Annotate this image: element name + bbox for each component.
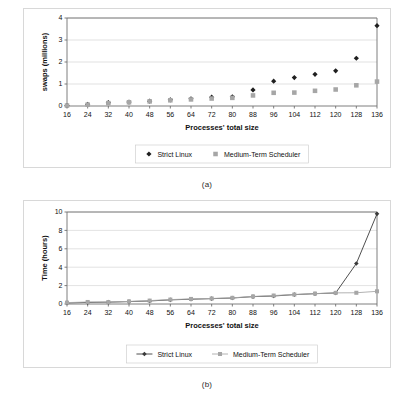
data-point-medium-term-scheduler-8 bbox=[230, 96, 235, 101]
x-tick-label-7: 72 bbox=[208, 309, 216, 316]
y-tick-label-4: 4 bbox=[59, 14, 63, 21]
data-point-medium-term-scheduler-5 bbox=[168, 98, 173, 103]
legend-label-medium-term-scheduler: Medium-Term Scheduler bbox=[233, 351, 310, 358]
x-tick-label-14: 128 bbox=[350, 309, 362, 316]
x-tick-label-3: 40 bbox=[125, 309, 133, 316]
data-point-medium-term-scheduler-6 bbox=[189, 297, 193, 301]
data-point-medium-term-scheduler-1 bbox=[85, 102, 90, 107]
x-tick-label-0: 16 bbox=[63, 111, 71, 118]
y-axis-title: swaps (millions) bbox=[40, 32, 49, 91]
legend-label-medium-term-scheduler: Medium-Term Scheduler bbox=[224, 151, 301, 158]
x-tick-label-5: 56 bbox=[166, 111, 174, 118]
data-point-medium-term-scheduler-4 bbox=[148, 299, 152, 303]
x-tick-label-7: 72 bbox=[208, 111, 216, 118]
x-tick-label-0: 16 bbox=[63, 309, 71, 316]
y-tick-label-1: 1 bbox=[59, 80, 63, 87]
data-point-strict-linux-legend bbox=[146, 151, 151, 156]
x-tick-label-13: 120 bbox=[330, 309, 342, 316]
data-point-medium-term-scheduler-14 bbox=[354, 83, 359, 88]
data-point-medium-term-scheduler-13 bbox=[333, 87, 338, 92]
legend-label-strict-linux: Strict Linux bbox=[157, 351, 192, 358]
data-point-medium-term-scheduler-11 bbox=[292, 293, 296, 297]
data-point-medium-term-scheduler-14 bbox=[354, 291, 358, 295]
x-tick-label-8: 80 bbox=[228, 111, 236, 118]
x-tick-label-9: 88 bbox=[249, 111, 257, 118]
chart-a-plot: 0123416243240485664728088961041121201281… bbox=[23, 8, 391, 172]
caption-b: (b) bbox=[0, 380, 414, 389]
x-tick-label-5: 56 bbox=[166, 309, 174, 316]
x-tick-label-9: 88 bbox=[249, 309, 257, 316]
chart-a-container: 0123416243240485664728088961041121201281… bbox=[23, 8, 391, 168]
y-tick-label-1: 2 bbox=[59, 282, 63, 289]
x-tick-label-6: 64 bbox=[187, 111, 195, 118]
data-point-medium-term-scheduler-2 bbox=[106, 101, 111, 106]
plot-area bbox=[67, 212, 377, 304]
x-tick-label-15: 136 bbox=[371, 309, 383, 316]
caption-a: (a) bbox=[0, 180, 414, 189]
x-tick-label-10: 96 bbox=[270, 111, 278, 118]
x-axis-title: Processes' total size bbox=[185, 123, 259, 132]
x-tick-label-8: 80 bbox=[228, 309, 236, 316]
x-tick-label-11: 104 bbox=[288, 309, 300, 316]
x-tick-label-1: 24 bbox=[84, 111, 92, 118]
data-point-medium-term-scheduler-15 bbox=[375, 79, 380, 84]
x-tick-label-11: 104 bbox=[288, 111, 300, 118]
chart-b-container: 0246810162432404856647280889610411212012… bbox=[23, 200, 391, 368]
figure-page: 0123416243240485664728088961041121201281… bbox=[0, 0, 414, 398]
x-tick-label-3: 40 bbox=[125, 111, 133, 118]
x-tick-label-14: 128 bbox=[350, 111, 362, 118]
x-tick-label-4: 48 bbox=[146, 111, 154, 118]
data-point-medium-term-scheduler-3 bbox=[127, 100, 132, 105]
x-tick-label-6: 64 bbox=[187, 309, 195, 316]
data-point-medium-term-scheduler-8 bbox=[230, 296, 234, 300]
y-tick-label-4: 8 bbox=[59, 227, 63, 234]
figure-a: 0123416243240485664728088961041121201281… bbox=[0, 8, 414, 198]
x-tick-label-10: 96 bbox=[270, 309, 278, 316]
data-point-medium-term-scheduler-0 bbox=[65, 103, 70, 108]
x-tick-label-13: 120 bbox=[330, 111, 342, 118]
data-point-medium-term-scheduler-9 bbox=[251, 294, 255, 298]
y-tick-label-3: 3 bbox=[59, 36, 63, 43]
x-tick-label-15: 136 bbox=[371, 111, 383, 118]
data-point-medium-term-scheduler-9 bbox=[251, 93, 256, 98]
legend-label-strict-linux: Strict Linux bbox=[157, 151, 192, 158]
y-axis-title: Time (hours) bbox=[40, 235, 49, 281]
y-tick-label-0: 0 bbox=[59, 300, 63, 307]
legend: Strict LinuxMedium-Term Scheduler bbox=[135, 145, 308, 163]
x-axis-title: Processes' total size bbox=[185, 321, 259, 330]
data-point-medium-term-scheduler-7 bbox=[209, 96, 214, 101]
data-point-medium-term-scheduler-5 bbox=[168, 298, 172, 302]
data-point-medium-term-scheduler-0 bbox=[65, 301, 69, 305]
data-point-medium-term-scheduler-7 bbox=[210, 296, 214, 300]
x-tick-label-2: 32 bbox=[104, 111, 112, 118]
data-point-medium-term-scheduler-12 bbox=[313, 292, 317, 296]
data-point-medium-term-scheduler-15 bbox=[375, 289, 379, 293]
data-point-medium-term-scheduler-legend bbox=[213, 152, 218, 157]
chart-svg: 0123416243240485664728088961041121201281… bbox=[23, 8, 391, 168]
legend: Strict LinuxMedium-Term Scheduler bbox=[126, 345, 317, 363]
x-tick-label-12: 112 bbox=[309, 309, 320, 316]
data-point-medium-term-scheduler-10 bbox=[272, 294, 276, 298]
data-point-medium-term-scheduler-3 bbox=[127, 299, 131, 303]
y-tick-label-5: 10 bbox=[55, 208, 63, 215]
y-tick-label-2: 4 bbox=[59, 264, 63, 271]
y-tick-label-3: 6 bbox=[59, 245, 63, 252]
data-point-medium-term-scheduler-1 bbox=[86, 300, 90, 304]
data-point-medium-term-scheduler-2 bbox=[106, 300, 110, 304]
x-tick-label-2: 32 bbox=[104, 309, 112, 316]
x-tick-label-1: 24 bbox=[84, 309, 92, 316]
data-point-medium-term-scheduler-11 bbox=[292, 90, 297, 95]
data-point-medium-term-scheduler-legend bbox=[218, 352, 222, 356]
figure-b: 0246810162432404856647280889610411212012… bbox=[0, 200, 414, 398]
data-point-medium-term-scheduler-12 bbox=[313, 89, 318, 94]
y-tick-label-2: 2 bbox=[59, 58, 63, 65]
x-tick-label-12: 112 bbox=[309, 111, 320, 118]
chart-svg: 0246810162432404856647280889610411212012… bbox=[23, 200, 391, 368]
y-tick-label-0: 0 bbox=[59, 102, 63, 109]
chart-b-plot: 0246810162432404856647280889610411212012… bbox=[23, 200, 391, 372]
data-point-medium-term-scheduler-6 bbox=[189, 97, 194, 102]
data-point-medium-term-scheduler-10 bbox=[271, 91, 276, 96]
data-point-medium-term-scheduler-4 bbox=[147, 99, 152, 104]
x-tick-label-4: 48 bbox=[146, 309, 154, 316]
data-point-medium-term-scheduler-13 bbox=[334, 291, 338, 295]
